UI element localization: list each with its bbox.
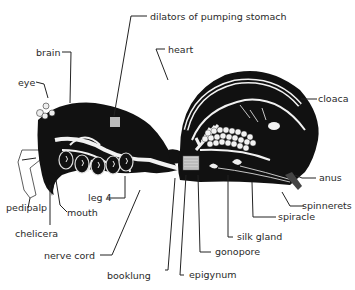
label-brain: brain	[36, 47, 60, 58]
label-epigynum: epigynum	[189, 269, 236, 280]
eye-2	[43, 103, 49, 109]
spider-anatomy-diagram: dilators of pumping stomach heart brain …	[0, 0, 355, 290]
label-leg4: leg 4	[88, 192, 112, 203]
pedipalp-shape	[18, 150, 40, 198]
cephalothorax	[37, 103, 186, 196]
label-chelicera: chelicera	[15, 228, 58, 239]
label-eye: eye	[18, 77, 35, 88]
label-pedipalp: pedipalp	[6, 202, 47, 213]
cloaca-shape	[268, 122, 280, 130]
label-booklung: booklung	[107, 270, 151, 281]
label-nerve-cord: nerve cord	[44, 250, 95, 261]
label-mouth: mouth	[67, 207, 98, 218]
label-silk-gland: silk gland	[237, 231, 282, 242]
abdomen	[178, 71, 319, 190]
eye-3	[42, 113, 48, 119]
label-spinnerets: spinnerets	[302, 200, 352, 211]
eye-4	[49, 110, 55, 116]
dilator-patch	[110, 117, 120, 127]
label-spiracle: spiracle	[278, 211, 315, 222]
label-cloaca: cloaca	[318, 93, 349, 104]
label-gonopore: gonopore	[215, 246, 260, 257]
label-dilators: dilators of pumping stomach	[150, 11, 287, 22]
label-anus: anus	[319, 172, 342, 183]
label-heart: heart	[168, 44, 194, 55]
